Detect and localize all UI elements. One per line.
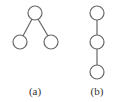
label-a: (a) [29,85,42,98]
edge-root-right [38,19,48,36]
edge-root-left [23,19,32,36]
diagram-a-tree: (a) [13,6,58,98]
node-right [44,35,58,49]
diagram-b-chain: (b) [90,6,104,98]
label-b: (b) [91,85,104,98]
node-n3 [90,65,104,79]
node-root [28,6,42,20]
node-n1 [90,6,104,20]
node-left [13,35,27,49]
figure: (a) (b) [0,0,116,102]
node-n2 [90,35,104,49]
